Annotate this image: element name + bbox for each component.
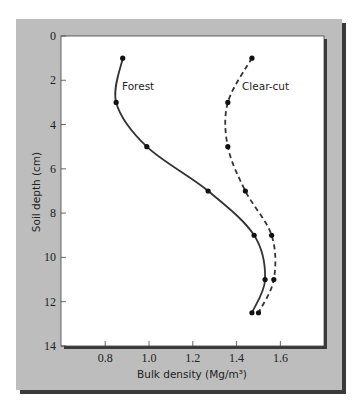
y-tick-label: 2: [50, 73, 56, 87]
data-point: [252, 233, 257, 238]
y-tick-label: 12: [44, 295, 56, 309]
data-point: [262, 277, 267, 282]
data-point: [249, 56, 254, 61]
x-tick-label: 1.6: [273, 351, 288, 365]
x-tick-label: 1.4: [229, 351, 244, 365]
data-point: [271, 277, 276, 282]
data-point: [225, 100, 230, 105]
data-point: [249, 310, 254, 315]
data-point: [243, 188, 248, 193]
x-tick-label: 0.8: [98, 351, 113, 365]
forest-label: Forest: [122, 80, 154, 92]
x-axis-label: Bulk density (Mg/m³): [137, 368, 247, 380]
data-point: [225, 144, 230, 149]
y-tick-label: 10: [44, 250, 56, 264]
y-tick-label: 8: [50, 206, 56, 220]
y-tick-label: 0: [50, 29, 56, 43]
y-tick-label: 14: [44, 339, 56, 353]
clearcut-label: Clear-cut: [242, 80, 289, 92]
data-point: [120, 56, 125, 61]
y-tick-label: 4: [50, 118, 56, 132]
y-axis-label: Soil depth (cm): [30, 152, 42, 232]
x-tick-label: 1.2: [185, 351, 200, 365]
data-point: [144, 144, 149, 149]
data-point: [114, 100, 119, 105]
data-point: [269, 233, 274, 238]
chart: 02468101214 0.81.01.21.41.6 Forest Clear…: [0, 0, 362, 416]
y-tick-label: 6: [50, 162, 56, 176]
data-point: [206, 188, 211, 193]
x-tick-label: 1.0: [142, 351, 157, 365]
data-point: [256, 310, 261, 315]
